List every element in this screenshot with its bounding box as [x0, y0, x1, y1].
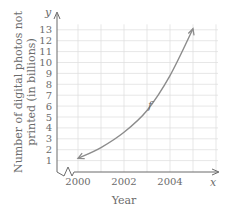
- y-tick-label: 1: [46, 155, 52, 166]
- y-tick-label: 13: [39, 24, 52, 35]
- y-axis-title-line-2: printed (in billions): [25, 38, 38, 146]
- y-axis-title-line-1: Number of digital photos not: [12, 11, 25, 173]
- y-axis-symbol: y: [44, 6, 52, 19]
- x-tick-label: 2004: [157, 176, 182, 187]
- y-tick-label: 11: [39, 46, 52, 57]
- x-axis-title: Year: [111, 194, 137, 207]
- x-tick-label: 2000: [65, 176, 90, 187]
- y-tick-label: 8: [46, 79, 52, 90]
- chart: y x 12345678910111213 200020022004 f Yea…: [0, 0, 228, 218]
- x-axis-symbol: x: [210, 176, 217, 189]
- y-tick-label: 2: [46, 144, 52, 155]
- x-tick-labels: 200020022004: [65, 176, 182, 187]
- curve-label: f: [147, 99, 154, 112]
- y-tick-label: 7: [46, 90, 52, 101]
- x-tick-label: 2002: [111, 176, 136, 187]
- y-tick-label: 9: [46, 68, 52, 79]
- y-tick-label: 12: [39, 35, 52, 46]
- axis-break-zigzag: [57, 167, 218, 176]
- y-tick-label: 5: [46, 112, 52, 123]
- y-tick-label: 4: [46, 122, 52, 133]
- axes: [54, 12, 219, 176]
- y-tick-labels: 12345678910111213: [39, 24, 52, 166]
- y-tick-label: 3: [46, 133, 52, 144]
- gridlines: [57, 24, 218, 172]
- y-tick-label: 10: [39, 57, 52, 68]
- y-axis-title: Number of digital photos not printed (in…: [12, 11, 38, 173]
- y-tick-label: 6: [46, 101, 52, 112]
